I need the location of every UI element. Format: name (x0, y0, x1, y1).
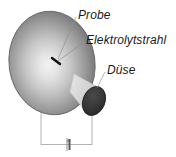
label-gap-dimension: a (67, 137, 70, 143)
label-probe: Probe (78, 9, 111, 21)
label-elektrolytstrahl: Elektrolytstrahl (86, 34, 166, 46)
diagram-canvas (0, 0, 176, 157)
electrolyte-jet-diagram: Probe Elektrolytstrahl Düse a (0, 0, 176, 157)
label-duese: Düse (107, 64, 135, 76)
